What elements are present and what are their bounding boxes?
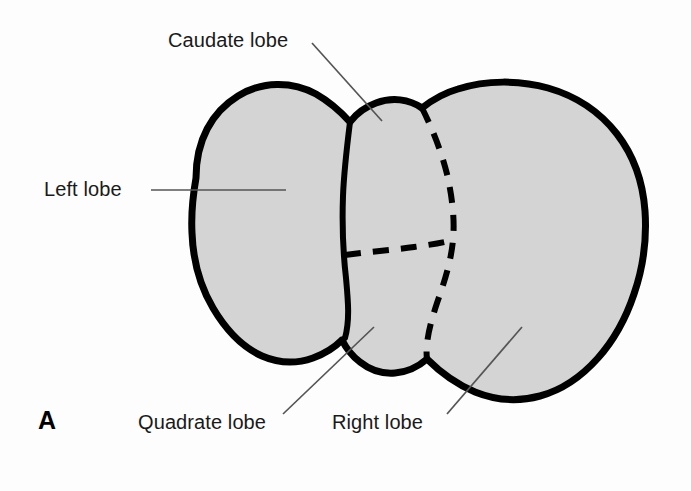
liver-outline-shape: [192, 82, 646, 399]
label-quadrate-lobe: Quadrate lobe: [138, 411, 266, 434]
label-caudate-lobe: Caudate lobe: [168, 29, 288, 52]
panel-letter-a: A: [38, 406, 56, 435]
label-right-lobe: Right lobe: [332, 411, 423, 434]
label-left-lobe: Left lobe: [44, 178, 122, 201]
liver-lobes-figure: Caudate lobe Left lobe Quadrate lobe Rig…: [0, 0, 691, 491]
